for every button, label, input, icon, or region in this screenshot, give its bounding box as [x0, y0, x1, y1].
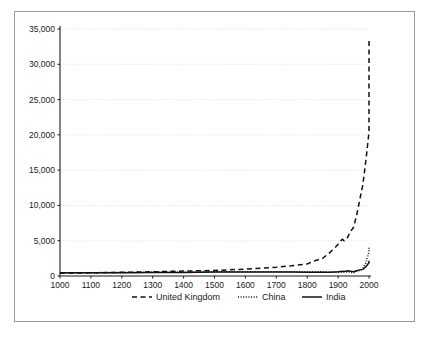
- line-chart: 05,00010,00015,00020,00025,00030,00035,0…: [15, 12, 416, 323]
- legend-label-india: India: [326, 292, 346, 302]
- y-tick-label-35000: 35,000: [29, 24, 55, 34]
- x-tick-label-1600: 1600: [236, 280, 255, 290]
- chart-legend: United KingdomChinaIndia: [132, 292, 346, 302]
- y-tick-label-5000: 5,000: [34, 236, 56, 246]
- series-line-united-kingdom: [60, 37, 369, 273]
- x-tick-label-1800: 1800: [298, 280, 317, 290]
- data-series-group: [60, 37, 369, 273]
- chart-figure: 05,00010,00015,00020,00025,00030,00035,0…: [14, 11, 415, 322]
- y-tick-label-30000: 30,000: [29, 59, 55, 69]
- x-axis-tick-labels: 1000110012001300140015001600170018001900…: [51, 276, 379, 290]
- x-tick-label-2000: 2000: [360, 280, 379, 290]
- y-axis-tick-labels: 05,00010,00015,00020,00025,00030,00035,0…: [29, 24, 55, 281]
- x-tick-label-1200: 1200: [112, 280, 131, 290]
- gridlines-group: [60, 29, 369, 241]
- legend-label-united-kingdom: United Kingdom: [156, 292, 220, 302]
- x-tick-label-1700: 1700: [267, 280, 286, 290]
- x-tick-label-1400: 1400: [174, 280, 193, 290]
- x-tick-label-1900: 1900: [329, 280, 348, 290]
- x-tick-label-1100: 1100: [82, 280, 101, 290]
- series-line-china: [60, 246, 369, 273]
- x-tick-label-1000: 1000: [51, 280, 70, 290]
- x-tick-label-1500: 1500: [205, 280, 224, 290]
- y-tick-label-25000: 25,000: [29, 95, 55, 105]
- y-tick-label-20000: 20,000: [29, 130, 55, 140]
- x-tick-label-1300: 1300: [143, 280, 162, 290]
- legend-label-china: China: [262, 292, 286, 302]
- axes-group: [58, 26, 372, 276]
- y-tick-label-15000: 15,000: [29, 165, 55, 175]
- y-tick-label-10000: 10,000: [29, 200, 55, 210]
